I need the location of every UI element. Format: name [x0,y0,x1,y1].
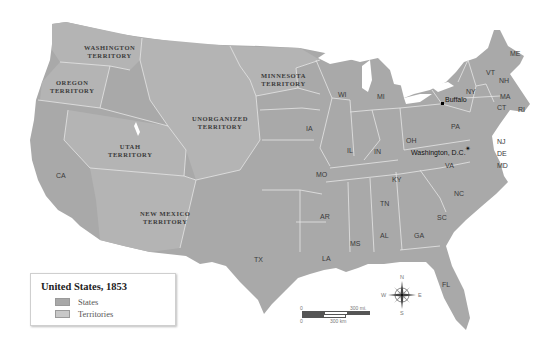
compass-w: W [381,292,386,298]
label-oh: OH [406,137,417,144]
label-buffalo: Buffalo [445,96,467,103]
label-oregon-territory: Oregon Territory [50,79,94,95]
label-ny: NY [466,88,476,95]
label-fl: FL [442,281,450,288]
label-washington-dc: Washington, D.C. [411,149,466,156]
label-ia: IA [306,125,313,132]
territory-line2: Territory [50,87,94,95]
label-unorganized-territory: Unorganized Territory [192,115,248,131]
label-sc: SC [437,214,447,221]
label-il: IL [347,147,353,154]
map-legend: United States, 1853 States Territories [30,273,176,326]
territory-line1: Minnesota [261,72,306,80]
label-ma: MA [500,93,511,100]
lake-superior [318,40,372,64]
label-minnesota-territory: Minnesota Territory [261,72,306,88]
label-tx: TX [254,256,263,263]
label-de: DE [497,150,507,157]
legend-item-territories: Territories [55,309,113,319]
label-wi: WI [338,91,347,98]
label-ga: GA [414,232,424,239]
territory-line2: Territory [108,151,152,159]
legend-title: United States, 1853 [41,281,127,292]
compass-s: S [400,310,404,316]
label-ar: AR [320,213,330,220]
label-nh: NH [499,77,509,84]
label-ms: MS [350,240,361,247]
territory-line1: Washington [84,44,135,52]
territory-line1: Utah [108,143,152,151]
territory-line2: Territory [261,80,306,88]
territory-line1: New Mexico [140,210,190,218]
territory-line1: Oregon [50,79,94,87]
label-mo: MO [316,171,327,178]
compass-e: E [418,292,422,298]
scale-bar: 0 300 mi. 0 300 km [300,305,380,327]
label-md: MD [497,162,508,169]
territory-line2: Territory [192,123,248,131]
label-washington-territory: Washington Territory [84,44,135,60]
label-utah-territory: Utah Territory [108,143,152,159]
territory-line2: Territory [140,218,190,226]
legend-label: Territories [78,309,113,319]
label-ca: CA [56,172,66,179]
label-ky: KY [392,176,401,183]
territory-line2: Territory [84,52,135,60]
compass-rose-icon: N S W E [384,275,420,315]
label-tn: TN [380,200,389,207]
label-in: IN [374,148,381,155]
label-me: ME [510,50,521,57]
label-nj: NJ [497,138,506,145]
label-vt: VT [486,69,495,76]
label-ri: RI [518,106,525,113]
states-swatch [55,298,70,306]
compass-n: N [400,274,404,280]
label-nc: NC [454,190,464,197]
label-ct: CT [497,104,506,111]
legend-item-states: States [55,297,98,307]
label-la: LA [322,255,331,262]
label-va: VA [445,162,454,169]
territories-swatch [55,310,70,318]
label-mi: MI [377,93,385,100]
label-al: AL [380,232,389,239]
compass-rose-graphic [384,275,420,315]
scale-km-zero: 0 [300,318,303,324]
scale-km-label: 300 km [330,318,346,324]
buffalo-marker-icon [441,102,444,105]
territory-line1: Unorganized [192,115,248,123]
label-pa: PA [451,123,460,130]
label-new-mexico-territory: New Mexico Territory [140,210,190,226]
legend-label: States [78,297,98,307]
